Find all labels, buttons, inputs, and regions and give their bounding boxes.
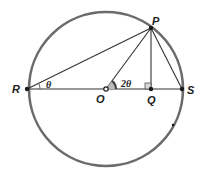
point-o [104, 87, 108, 91]
label-q: Q [147, 94, 156, 106]
label-s: S [187, 84, 195, 96]
label-r: R [12, 83, 20, 95]
label-angle-2theta: 2θ [120, 78, 132, 89]
point-q [149, 87, 153, 91]
label-p: P [152, 15, 160, 27]
geometry-diagram: P R O Q S θ 2θ [0, 0, 205, 178]
point-s [180, 87, 184, 91]
circle-tick-mark [172, 124, 174, 126]
point-r [25, 87, 29, 91]
angle-arc-theta [39, 83, 40, 89]
label-angle-theta: θ [46, 79, 52, 90]
label-o: O [96, 93, 105, 105]
